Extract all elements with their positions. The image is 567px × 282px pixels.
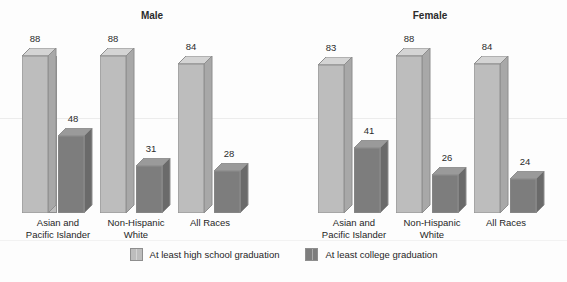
bar-chart-figure: Male Female 88 48 Asian and Pacific Isla… <box>0 0 567 282</box>
bar-3d-geometry <box>510 171 545 213</box>
bar-3d-geometry <box>318 57 353 213</box>
category-label-female-white: Non-Hispanic White <box>403 217 460 240</box>
bar-3d-geometry <box>178 56 213 213</box>
category-label-female-asian: Asian and Pacific Islander <box>322 217 386 240</box>
bar-3d-geometry <box>432 167 467 213</box>
bar-3d-geometry <box>396 48 431 213</box>
bar-3d-geometry <box>474 56 509 213</box>
bar-male-white-college <box>136 158 171 213</box>
bar-male-asian-highschool <box>22 48 57 213</box>
category-label-male-white: Non-Hispanic White <box>107 217 164 240</box>
value-label-female-asian-highschool: 83 <box>326 42 337 53</box>
value-label-female-white-college: 26 <box>442 152 453 163</box>
bar-female-asian-highschool <box>318 57 353 213</box>
value-label-male-asian-college: 48 <box>68 113 79 124</box>
value-label-male-white-highschool: 88 <box>108 33 119 44</box>
bar-female-allraces-college <box>510 171 545 213</box>
category-label-line1: All Races <box>190 217 230 228</box>
category-label-male-asian: Asian and Pacific Islander <box>26 217 90 240</box>
legend-label-highschool: At least high school graduation <box>150 249 280 260</box>
panel-title-male: Male <box>141 10 163 21</box>
value-label-male-white-college: 31 <box>146 143 157 154</box>
bar-3d-geometry <box>354 140 389 213</box>
category-label-line1: Asian and <box>37 217 79 228</box>
category-label-line1: Non-Hispanic <box>403 217 460 228</box>
bar-3d-geometry <box>58 128 93 213</box>
category-label-line2: White <box>420 229 444 240</box>
category-label-line2: White <box>124 229 148 240</box>
category-label-female-allraces: All Races <box>486 217 526 229</box>
bar-female-white-highschool <box>396 48 431 213</box>
bar-3d-geometry <box>136 158 171 213</box>
bar-3d-geometry <box>22 48 57 213</box>
bar-male-allraces-college <box>214 163 249 213</box>
legend-item-highschool: At least high school graduation <box>130 248 280 261</box>
panel-title-female: Female <box>413 10 447 21</box>
category-label-line2: Pacific Islander <box>322 229 386 240</box>
value-label-female-allraces-highschool: 84 <box>482 41 493 52</box>
bar-female-white-college <box>432 167 467 213</box>
value-label-female-white-highschool: 88 <box>404 33 415 44</box>
bar-3d-geometry <box>214 163 249 213</box>
bar-male-allraces-highschool <box>178 56 213 213</box>
value-label-female-allraces-college: 24 <box>520 156 531 167</box>
chart-legend: At least high school graduation At least… <box>0 248 567 261</box>
bar-female-asian-college <box>354 140 389 213</box>
scan-artifact-line-lower <box>0 240 567 241</box>
legend-label-college: At least college graduation <box>325 249 437 260</box>
value-label-female-asian-college: 41 <box>364 125 375 136</box>
category-label-line1: Non-Hispanic <box>107 217 164 228</box>
value-label-male-allraces-college: 28 <box>224 148 235 159</box>
value-label-male-asian-highschool: 88 <box>30 33 41 44</box>
category-label-line2: Pacific Islander <box>26 229 90 240</box>
bar-female-allraces-highschool <box>474 56 509 213</box>
category-label-line1: All Races <box>486 217 526 228</box>
legend-swatch-college-icon <box>305 248 318 261</box>
category-label-male-allraces: All Races <box>190 217 230 229</box>
bar-male-asian-college <box>58 128 93 213</box>
value-label-male-allraces-highschool: 84 <box>186 41 197 52</box>
legend-item-college: At least college graduation <box>305 248 437 261</box>
bar-male-white-highschool <box>100 48 135 213</box>
legend-swatch-highschool-icon <box>130 248 143 261</box>
category-label-line1: Asian and <box>333 217 375 228</box>
bar-3d-geometry <box>100 48 135 213</box>
